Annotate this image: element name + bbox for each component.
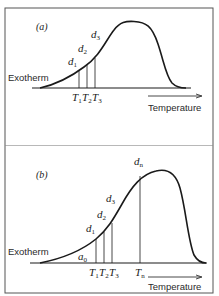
panel-a-temperature-label: Temperature (148, 102, 201, 113)
panel-b-t3-label: T3 (109, 266, 119, 280)
panel-a-d2-label: d2 (78, 42, 88, 56)
panel-a: (a) d1 d2 d3 T1 T2 T3 Exotherm Temperatu… (8, 21, 202, 113)
panel-b-d3-label: d3 (106, 192, 116, 206)
panel-b-exotherm-label: Exotherm (8, 246, 49, 257)
panel-b-d2-label: d2 (97, 208, 107, 222)
panel-a-exotherm-curve (40, 21, 186, 88)
panel-a-exotherm-label: Exotherm (8, 72, 49, 83)
panel-b-d1-label: d1 (86, 222, 96, 236)
panel-b-exotherm-curve (40, 170, 206, 263)
panel-a-t3-label: T3 (92, 91, 102, 105)
panel-b-temperature-label: Temperature (148, 281, 201, 292)
panel-b: (b) a0 d1 d2 d3 dn T1 T2 T3 Tn Exotherm … (8, 155, 207, 292)
panel-a-t2-label: T2 (82, 91, 92, 105)
panel-b-a0-label: a0 (78, 250, 88, 264)
panel-a-d1-label: d1 (68, 55, 78, 69)
panel-b-dn-label: dn (134, 155, 144, 169)
panel-b-t1-label: T1 (89, 266, 99, 280)
panel-a-t1-label: T1 (72, 91, 82, 105)
panel-a-d3-label: d3 (91, 28, 101, 42)
panel-a-label: (a) (36, 21, 48, 33)
panel-b-tn-label: Tn (135, 266, 145, 280)
exotherm-diagram: (a) d1 d2 d3 T1 T2 T3 Exotherm Temperatu… (0, 0, 219, 296)
panel-b-t2-label: T2 (99, 266, 109, 280)
panel-b-label: (b) (36, 169, 48, 181)
